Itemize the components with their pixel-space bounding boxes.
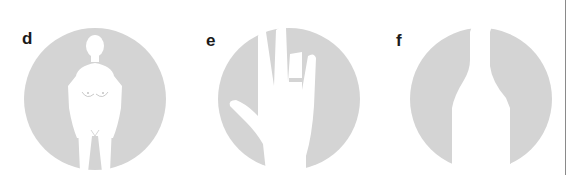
female-figure-icon (22, 26, 168, 172)
panel-label-f: f (396, 32, 402, 49)
panel-f: f (380, 0, 570, 175)
hand-icon (216, 26, 362, 172)
bottle-icon (408, 26, 554, 172)
right-border-line (565, 0, 566, 175)
panel-d: d (0, 0, 190, 175)
panel-label-e: e (206, 32, 215, 49)
panel-e: e (190, 0, 380, 175)
